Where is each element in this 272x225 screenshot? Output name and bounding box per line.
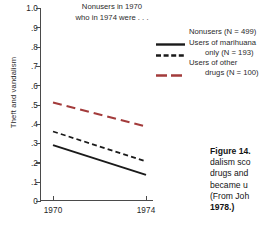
y-tick-label-0.3: .3: [16, 139, 38, 148]
legend-swatch-dashed-short-icon: [156, 43, 185, 46]
figure-caption: Figure 14. dalism sco drugs and became u…: [210, 146, 272, 213]
caption-line-5: (From Joh: [210, 191, 272, 202]
y-tick-label-1.0: 1.0: [16, 4, 38, 13]
y-tick-label-0.5: .5: [16, 101, 38, 110]
plot-region: [40, 8, 153, 201]
legend-label-marihuana-only-line-2: only (N = 193): [205, 48, 272, 58]
caption-line-2: dalism sco: [210, 157, 272, 168]
y-tick-label-0.8: .8: [16, 43, 38, 52]
series-line-nonusers: [53, 145, 146, 175]
y-tick-label-0.2: .2: [16, 159, 38, 168]
y-tick-label-column: 1.0 .9 .8 .7 .6 .5 .4 .3 .2 .1 0: [14, 0, 38, 225]
series-lines: [40, 8, 153, 201]
series-line-marihuana-only: [53, 132, 146, 162]
caption-line-1: Figure 14.: [210, 146, 272, 157]
y-tick-label-0.4: .4: [16, 120, 38, 129]
chart-legend: Nonusers (N = 499) Users of marihuana on…: [156, 27, 272, 78]
figure-14: Theft and vandalism Nonusers in 1970 who…: [0, 0, 272, 225]
y-tick-label-0.1: .1: [16, 178, 38, 187]
x-tick-label-1970: 1970: [44, 206, 63, 215]
legend-item-marihuana-only: Users of marihuana only (N = 193): [156, 38, 272, 57]
legend-item-other-drugs: Users of other drugs (N = 100): [156, 58, 272, 77]
legend-label-other-drugs-line-1: Users of other: [189, 58, 272, 68]
y-axis-tick: [36, 201, 41, 202]
legend-label-nonusers: Nonusers (N = 499): [189, 27, 272, 37]
legend-label-other-drugs-line-2: drugs (N = 100): [205, 68, 272, 78]
caption-line-6: 1978.): [210, 202, 272, 213]
y-tick-label-0: 0: [16, 197, 38, 206]
y-tick-label-0.9: .9: [16, 24, 38, 33]
y-tick-label-0.6: .6: [16, 82, 38, 91]
chart-area: Theft and vandalism Nonusers in 1970 who…: [0, 0, 170, 225]
x-tick-label-1974: 1974: [137, 206, 156, 215]
y-tick-label-0.7: .7: [16, 62, 38, 71]
legend-item-nonusers: Nonusers (N = 499): [156, 27, 272, 37]
series-line-other-drugs: [53, 103, 146, 127]
legend-label-marihuana-only-line-1: Users of marihuana: [189, 38, 272, 48]
caption-line-4: became u: [210, 180, 272, 191]
legend-swatch-solid-icon: [156, 32, 185, 35]
legend-swatch-dashed-long-icon: [156, 63, 185, 66]
caption-line-3: drugs and: [210, 168, 272, 179]
